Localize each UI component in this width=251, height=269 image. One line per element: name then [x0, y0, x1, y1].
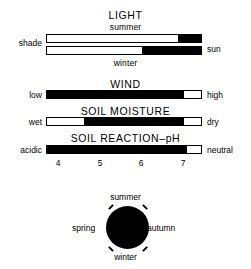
ph-tick-4: 4 — [48, 158, 68, 168]
bar-light-winter-fill — [142, 47, 201, 54]
bar-wind-fill — [47, 91, 184, 98]
section-title-soil-reaction: SOIL REACTION–pH — [0, 132, 251, 144]
bar-light-winter — [46, 46, 202, 55]
soil-moisture-left-label: wet — [29, 118, 42, 127]
season-tick-se — [142, 246, 148, 252]
season-tick-ne — [142, 204, 148, 210]
light-summer-sublabel: summer — [0, 22, 251, 32]
soil-reaction-left-label: acidic — [20, 146, 42, 155]
ph-tick-7: 7 — [173, 158, 193, 168]
bar-soil-moisture-fill — [84, 118, 184, 125]
season-tick-sw — [108, 246, 114, 252]
seasons-circle-diagram: summer spring autumn winter — [0, 192, 251, 269]
season-label-spring: spring — [72, 223, 95, 233]
plant-ecology-indicator-diagram: LIGHT summer shade sun winter WIND low h… — [0, 0, 251, 269]
bar-wind — [46, 90, 202, 99]
ph-tick-6: 6 — [131, 158, 151, 168]
bar-light-summer-fill — [178, 35, 201, 42]
soil-reaction-right-label: neutral — [207, 146, 233, 155]
season-tick-nw — [108, 204, 114, 210]
light-winter-sublabel: winter — [0, 58, 251, 68]
section-title-wind: WIND — [0, 78, 251, 90]
light-left-label: shade — [19, 39, 42, 48]
soil-moisture-right-label: dry — [207, 118, 219, 127]
seasons-circle-fill — [106, 206, 149, 249]
season-label-summer: summer — [0, 192, 251, 202]
section-title-soil-moisture: SOIL MOISTURE — [0, 105, 251, 117]
wind-right-label: high — [207, 91, 223, 100]
section-title-light: LIGHT — [0, 9, 251, 21]
bar-soil-reaction — [46, 145, 202, 154]
light-right-label: sun — [207, 45, 221, 54]
bar-soil-moisture — [46, 117, 202, 126]
season-label-autumn: autumn — [147, 223, 175, 233]
bar-light-summer — [46, 34, 202, 43]
season-label-winter: winter — [0, 252, 251, 262]
wind-left-label: low — [29, 91, 42, 100]
ph-tick-5: 5 — [90, 158, 110, 168]
bar-soil-reaction-fill — [47, 146, 187, 153]
